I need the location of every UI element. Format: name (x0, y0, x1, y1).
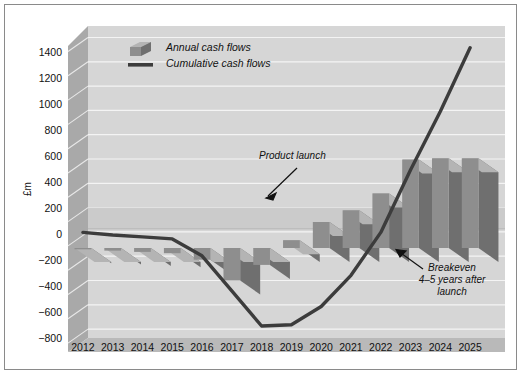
annotation-breakeven-line-3: launch (404, 286, 500, 298)
y-tick-200: 200 (18, 202, 62, 214)
annotation-breakeven: Breakeven 4–5 years after launch (404, 262, 500, 298)
bar-2025 (462, 158, 499, 262)
y-tick--600: −600 (18, 306, 62, 318)
y-tick--800: −800 (18, 332, 62, 344)
y-tick-1000: 1000 (18, 98, 62, 110)
legend-label-cumulative: Cumulative cash flows (166, 57, 270, 69)
annotation-product-launch: Product launch (259, 150, 326, 162)
y-tick-1200: 1200 (18, 72, 62, 84)
plot-left-wall (68, 26, 88, 352)
y-tick-800: 800 (18, 124, 62, 136)
y-tick--400: −400 (18, 280, 62, 292)
annotation-breakeven-line-1: Breakeven (404, 262, 500, 274)
chart-screenshot: £m 1400120010008006004002000−200−400−600… (0, 0, 523, 375)
bar-swatch-front (130, 47, 141, 56)
y-tick-1400: 1400 (18, 46, 62, 58)
x-tick-2025: 2025 (450, 341, 490, 353)
y-tick-400: 400 (18, 176, 62, 188)
y-tick-0: 0 (18, 228, 62, 240)
y-tick--200: −200 (18, 254, 62, 266)
cash-flow-chart: £m 1400120010008006004002000−200−400−600… (0, 0, 523, 375)
y-tick-600: 600 (18, 150, 62, 162)
legend-label-annual: Annual cash flows (166, 41, 251, 53)
line-swatch (128, 63, 153, 67)
annotation-breakeven-line-2: 4–5 years after (404, 274, 500, 286)
